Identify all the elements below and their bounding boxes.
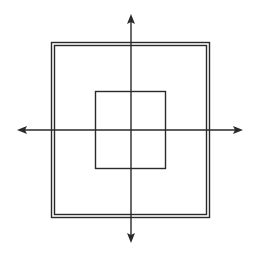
coordinate-diagram <box>0 0 254 257</box>
background <box>0 0 254 257</box>
